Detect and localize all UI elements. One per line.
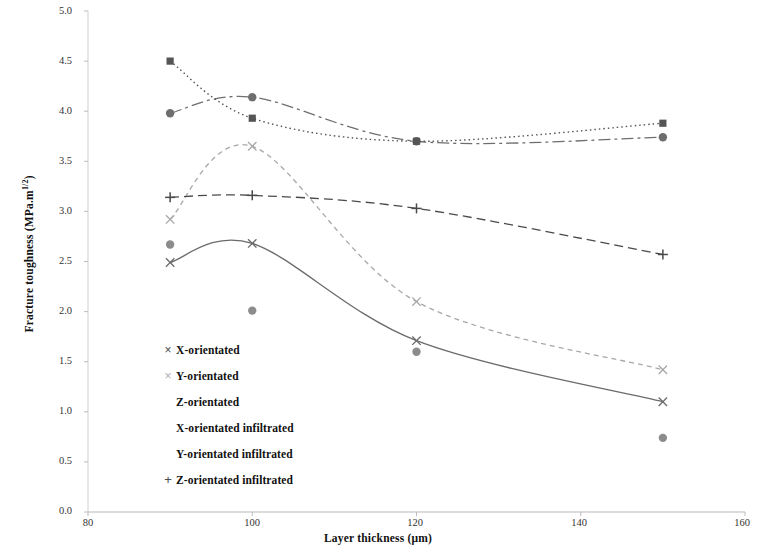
circle-data-point bbox=[166, 109, 174, 117]
series-line bbox=[170, 96, 663, 143]
chart-figure: 5.0 4.5 4.0 3.5 3.0 2.5 2.0 1.5 1.0 0.5 … bbox=[0, 0, 761, 554]
circle-data-point bbox=[659, 133, 667, 141]
series-x-orientated-infiltrated bbox=[166, 93, 667, 145]
circle-data-point bbox=[248, 93, 256, 101]
square-data-point bbox=[413, 138, 420, 145]
x-data-point bbox=[412, 336, 420, 344]
x-data-point bbox=[166, 215, 174, 223]
circle-data-point bbox=[659, 434, 667, 442]
x-data-point bbox=[248, 239, 256, 247]
plus-data-point bbox=[165, 192, 175, 202]
square-data-point bbox=[249, 115, 256, 122]
circle-data-point bbox=[166, 240, 174, 248]
series-line bbox=[170, 145, 663, 370]
data-series-layer bbox=[165, 58, 668, 443]
plus-data-point bbox=[658, 249, 668, 259]
plus-data-point bbox=[412, 203, 422, 213]
square-data-point bbox=[659, 120, 666, 127]
axis-lines bbox=[84, 11, 745, 516]
circle-data-point bbox=[248, 306, 256, 314]
plus-data-point bbox=[247, 190, 257, 200]
x-data-point bbox=[659, 398, 667, 406]
circle-data-point bbox=[412, 347, 420, 355]
series-y-orientated bbox=[166, 142, 667, 374]
x-data-point bbox=[248, 142, 256, 150]
series-line bbox=[170, 240, 663, 402]
x-data-point bbox=[412, 297, 420, 305]
series-y-orientated-infiltrated bbox=[167, 58, 667, 145]
y-axis-ticks bbox=[84, 11, 88, 512]
x-data-point bbox=[659, 366, 667, 374]
square-data-point bbox=[167, 58, 174, 65]
series-z-orientated-infiltrated bbox=[165, 190, 668, 259]
x-axis-ticks bbox=[88, 512, 745, 516]
plot-area bbox=[0, 0, 761, 554]
series-x-orientated bbox=[166, 239, 667, 406]
series-line bbox=[170, 61, 663, 141]
x-data-point bbox=[166, 258, 174, 266]
